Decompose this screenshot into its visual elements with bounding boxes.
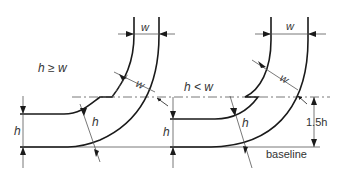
left-h-diag-label: h (92, 115, 99, 129)
right-inner-wall (170, 17, 271, 119)
left-w-diag-label: w (134, 77, 147, 92)
left-condition-label: h ≥ w (38, 61, 68, 75)
left-diagram: w w h ≥ w h h (14, 17, 175, 168)
diagram-canvas: w w h ≥ w h h w w h < w (0, 0, 341, 181)
baseline-label: baseline (266, 148, 307, 160)
left-w-top-label: w (141, 21, 150, 33)
right-h-diag-label: h (242, 116, 249, 130)
right-w-diag-label: w (278, 71, 292, 86)
left-h-side-label: h (14, 124, 21, 138)
right-diagram: w w h < w h h 1.5h baseline (163, 17, 327, 168)
right-h-side-label: h (163, 125, 170, 139)
right-condition-label: h < w (184, 80, 214, 94)
right-1-5h-label: 1.5h (306, 116, 327, 128)
right-w-top-label: w (286, 20, 295, 32)
